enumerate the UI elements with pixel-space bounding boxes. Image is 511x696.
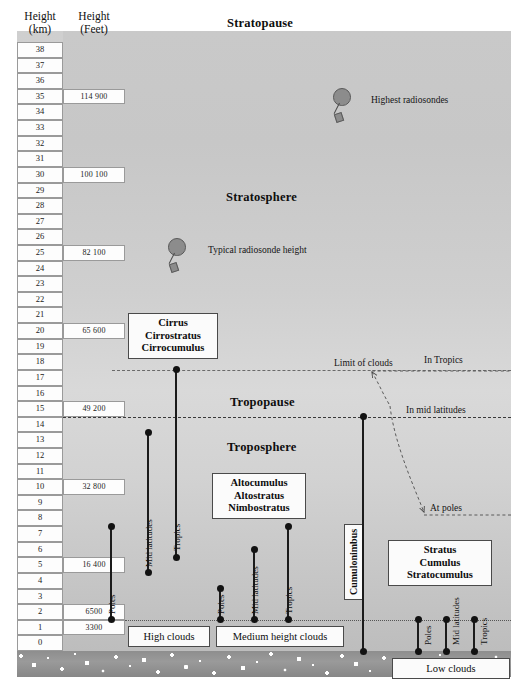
layer-label-troposphere: Troposphere — [227, 440, 297, 455]
km-tick-26: 26 — [17, 229, 63, 245]
high-poles-top-dot — [108, 523, 115, 530]
feet-header-line1: Height — [78, 10, 109, 22]
feet-tick-25km: 82 100 — [63, 245, 125, 261]
km-tick-6: 6 — [17, 542, 63, 558]
high-cloud-type-1: Cirrus — [135, 317, 211, 330]
km-header-line2: (km) — [17, 23, 63, 36]
km-tick-33: 33 — [17, 120, 63, 136]
low-tropics-label: Tropics — [479, 618, 489, 645]
km-tick-3: 3 — [17, 589, 63, 605]
km-tick-7: 7 — [17, 526, 63, 542]
km-tick-37: 37 — [17, 58, 63, 74]
low-poles-label: Poles — [423, 625, 433, 645]
km-tick-35: 35 — [17, 89, 63, 105]
cumulonimbus-label: Cumulonimbus — [344, 524, 363, 600]
medium-cloud-type-2: Altostratus — [219, 490, 299, 503]
low-tropics-bottom-dot — [471, 648, 478, 655]
medium-poles-label: Poles — [216, 594, 226, 614]
feet-header-line2: (Feet) — [63, 23, 125, 36]
low-mid-latitudes-bar — [445, 620, 447, 651]
limit-of-clouds-label: Limit of clouds — [334, 358, 393, 368]
high-mid-latitudes-top-dot — [145, 429, 152, 436]
medium-tropics-label: Tropics — [284, 587, 294, 614]
km-tick-5: 5 — [17, 557, 63, 573]
high-tropics-label: Tropics — [172, 524, 182, 551]
km-tick-9: 9 — [17, 495, 63, 511]
feet-tick-1km: 3300 — [63, 620, 125, 636]
medium-cloud-types-box: Altocumulus Altostratus Nimbostratus — [212, 473, 306, 519]
km-tick-12: 12 — [17, 448, 63, 464]
km-tick-22: 22 — [17, 292, 63, 308]
feet-tick-20km: 65 600 — [63, 323, 125, 339]
km-tick-31: 31 — [17, 151, 63, 167]
balloon-envelope-icon — [333, 88, 351, 106]
low-clouds-footer: Low clouds — [392, 658, 510, 679]
balloon-envelope-icon — [168, 238, 186, 256]
feet-tick-5km: 16 400 — [63, 557, 125, 573]
layer-label-stratosphere: Stratosphere — [226, 190, 297, 205]
in-tropics-label: In Tropics — [424, 355, 463, 365]
km-tick-8: 8 — [17, 510, 63, 526]
km-tick-23: 23 — [17, 276, 63, 292]
medium-mid-latitudes-label: Mid latitudes — [250, 566, 260, 614]
km-column-header: Height (km) — [17, 10, 63, 36]
low-mid-latitudes-label: Mid latitudes — [451, 597, 461, 645]
km-tick-2: 2 — [17, 604, 63, 620]
km-tick-0: 0 — [17, 635, 63, 651]
low-poles-bottom-dot — [415, 648, 422, 655]
feet-tick-15km: 49 200 — [63, 401, 125, 417]
km-tick-21: 21 — [17, 307, 63, 323]
km-tick-1: 1 — [17, 620, 63, 636]
high-tropics-bottom-dot — [173, 554, 180, 561]
feet-tick-35km: 114 900 — [63, 89, 125, 105]
medium-cloud-type-3: Nimbostratus — [219, 502, 299, 515]
cumulonimbus-bar — [362, 417, 364, 651]
km-tick-27: 27 — [17, 214, 63, 230]
km-tick-15: 15 — [17, 401, 63, 417]
km-tick-17: 17 — [17, 370, 63, 386]
km-tick-34: 34 — [17, 104, 63, 120]
in-mid-latitudes-label: In mid latitudes — [406, 405, 466, 415]
km-tick-16: 16 — [17, 386, 63, 402]
high-cloud-type-3: Cirrocumulus — [135, 342, 211, 355]
feet-column-header: Height (Feet) — [63, 10, 125, 36]
tropopause-line — [63, 417, 511, 418]
km-tick-32: 32 — [17, 136, 63, 152]
low-cloud-type-3: Stratocumulus — [395, 569, 485, 582]
at-poles-label: At poles — [430, 503, 462, 513]
km-tick-13: 13 — [17, 432, 63, 448]
high-cloud-type-2: Cirrostratus — [135, 330, 211, 343]
low-poles-bar — [417, 620, 419, 651]
km-tick-24: 24 — [17, 261, 63, 277]
high-poles-label: Poles — [107, 594, 117, 614]
km-tick-38: 38 — [17, 42, 63, 58]
km-tick-18: 18 — [17, 354, 63, 370]
low-cloud-types-box: Stratus Cumulus Stratocumulus — [388, 540, 492, 586]
high-cloud-types-box: Cirrus Cirrostratus Cirrocumulus — [128, 313, 218, 359]
low-tropics-bar — [473, 620, 475, 651]
medium-clouds-footer: Medium height clouds — [216, 626, 344, 647]
atmosphere-diagram: Height (km) Height (Feet) 38373635343332… — [0, 0, 511, 696]
medium-cloud-type-1: Altocumulus — [219, 477, 299, 490]
km-tick-30: 30 — [17, 167, 63, 183]
low-mid-latitudes-bottom-dot — [443, 648, 450, 655]
limit-of-clouds-line — [112, 370, 511, 371]
km-header-line1: Height — [24, 10, 55, 22]
km-tick-11: 11 — [17, 464, 63, 480]
layer-label-tropopause: Tropopause — [230, 395, 295, 410]
feet-tick-10km: 32 800 — [63, 479, 125, 495]
low-cloud-type-1: Stratus — [395, 544, 485, 557]
cumulonimbus-bottom-dot — [360, 648, 367, 655]
km-tick-19: 19 — [17, 339, 63, 355]
km-tick-10: 10 — [17, 479, 63, 495]
highest-radiosondes-label: Highest radiosondes — [371, 95, 448, 105]
high-clouds-footer: High clouds — [128, 626, 210, 647]
low-cloud-type-2: Cumulus — [395, 557, 485, 570]
km-tick-25: 25 — [17, 245, 63, 261]
typical-radiosonde-label: Typical radiosonde height — [208, 245, 307, 255]
feet-tick-30km: 100 100 — [63, 167, 125, 183]
km-tick-28: 28 — [17, 198, 63, 214]
medium-tropics-top-dot — [285, 523, 292, 530]
high-mid-latitudes-label: Mid latitudes — [144, 519, 154, 567]
layer-label-stratopause: Stratopause — [227, 16, 293, 31]
